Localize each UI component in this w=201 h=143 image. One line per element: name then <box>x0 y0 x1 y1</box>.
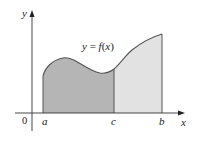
tick-label-a: a <box>42 115 48 127</box>
region-a-to-c <box>43 58 114 113</box>
tick-label-c: c <box>111 115 116 127</box>
y-axis-arrow-icon <box>30 10 35 17</box>
curve-label-glyph: ) <box>110 40 114 53</box>
y-axis-label: y <box>21 7 27 19</box>
curve-label: y = f(x) <box>81 40 114 53</box>
x-axis-label: x <box>180 116 186 128</box>
tick-label-b: b <box>159 115 165 127</box>
origin-label: 0 <box>22 115 27 126</box>
area-under-curve-diagram: y x 0 a c b y = f(x) <box>0 0 201 143</box>
x-axis-arrow-icon <box>178 111 185 116</box>
